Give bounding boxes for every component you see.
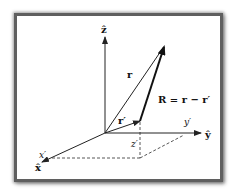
vector-diagram: ẑ ŷ x̂ r r′ R = r − r′ y′ z′ x′ xyxy=(0,0,233,192)
r-label: r xyxy=(127,69,133,80)
z-axis-label: ẑ xyxy=(101,24,107,35)
x-axis-label: x̂ xyxy=(35,162,42,173)
projection-lines xyxy=(52,122,184,158)
vector-R xyxy=(140,47,164,121)
z-prime-label: z′ xyxy=(130,139,138,149)
y-axis-label: ŷ xyxy=(204,129,212,140)
x-prime-label: x′ xyxy=(39,150,46,160)
R-equation-label: R = r − r′ xyxy=(158,94,211,105)
vector-r xyxy=(105,48,163,133)
dashed-diagonal xyxy=(140,135,184,158)
r-prime-label: r′ xyxy=(118,115,126,126)
y-prime-label: y′ xyxy=(183,117,191,127)
